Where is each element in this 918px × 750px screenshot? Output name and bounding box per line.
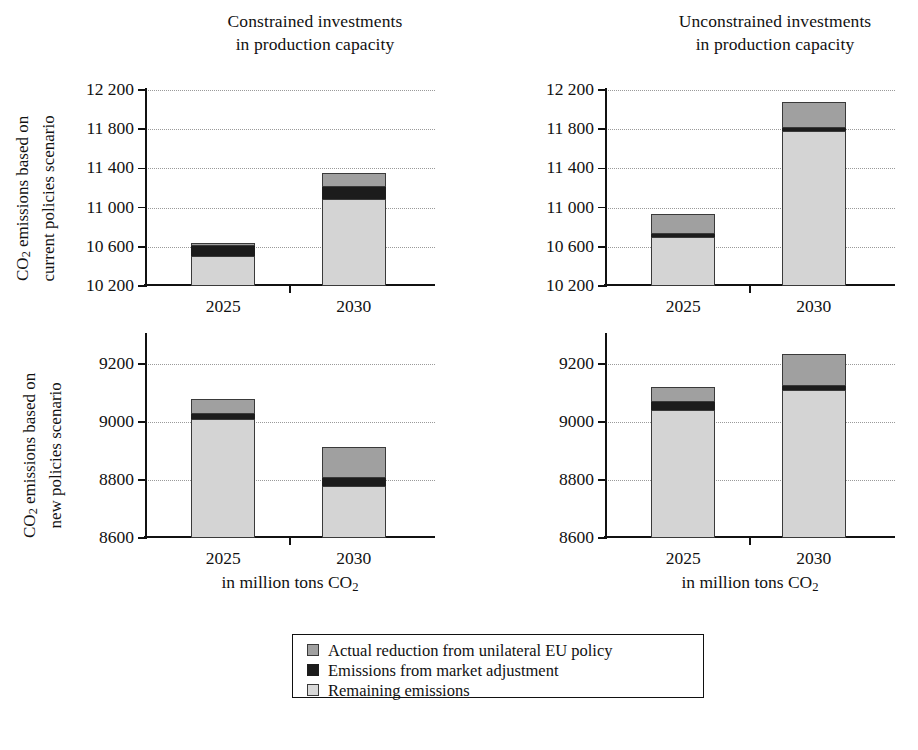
y-axis-tick-label: 11 000 — [547, 199, 594, 217]
stacked-bar-2025 — [191, 399, 255, 538]
stacked-bar-2025 — [651, 387, 715, 538]
y-axis-tick-label: 10 600 — [546, 238, 594, 256]
x-axis-tick — [289, 538, 291, 545]
gridline — [145, 208, 435, 209]
stacked-bar-2030 — [782, 354, 846, 538]
gridline — [145, 480, 435, 481]
bar-segment-market-adjustment — [191, 414, 255, 419]
y-axis-tick-label: 11 800 — [87, 120, 134, 138]
bar-segment-market-adjustment — [191, 246, 255, 256]
y-axis-tick-label: 9200 — [99, 355, 134, 373]
y-axis-line — [605, 333, 607, 539]
x-axis-tick-label: 2030 — [336, 548, 371, 569]
stacked-bar-2030 — [322, 447, 386, 538]
bar-segment-actual-reduction — [322, 447, 386, 478]
gridline — [145, 129, 435, 130]
legend-swatch-remaining-icon — [307, 684, 319, 696]
y-axis-tick-label: 9200 — [559, 355, 594, 373]
bar-segment-actual-reduction — [191, 399, 255, 414]
column-title-constrained-line1: Constrained investments — [228, 11, 403, 31]
y-axis-line — [145, 88, 147, 287]
y-axis-tick — [598, 168, 605, 170]
y-axis-tick-label: 12 200 — [546, 81, 594, 99]
chart-panel-bottom-right: 860088009000920020252030 — [605, 335, 895, 538]
x-axis-caption-left: in million tons CO2 — [140, 572, 440, 595]
y-axis-line — [145, 333, 147, 539]
legend-label-market: Emissions from market adjustment — [328, 662, 559, 679]
y-axis-tick-label: 10 200 — [546, 277, 594, 295]
column-title-constrained-line2: in production capacity — [236, 34, 395, 54]
y-axis-tick — [598, 89, 605, 91]
legend: Actual reduction from unilateral EU poli… — [292, 634, 704, 698]
bar-segment-market-adjustment — [651, 402, 715, 410]
gridline — [145, 422, 435, 423]
bar-segment-remaining-emissions — [782, 390, 846, 538]
row-label-current-policies-line1: CO2 emissions based on — [12, 93, 38, 303]
chart-panel-top-left: 10 20010 60011 00011 40011 80012 2002025… — [145, 90, 435, 286]
y-axis-tick-label: 9000 — [99, 413, 134, 431]
x-axis-tick-label: 2025 — [666, 548, 701, 569]
legend-swatch-market-icon — [307, 664, 319, 676]
gridline — [145, 247, 435, 248]
legend-swatch-reduction-icon — [307, 644, 319, 656]
legend-label-remaining: Remaining emissions — [328, 682, 470, 699]
x-axis-tick-label: 2025 — [666, 296, 701, 317]
x-axis-tick — [289, 286, 291, 293]
y-axis-tick — [598, 479, 605, 481]
bar-segment-market-adjustment — [322, 187, 386, 199]
y-axis-line — [605, 88, 607, 287]
y-axis-tick-label: 11 400 — [547, 160, 594, 178]
x-axis-tick-label: 2025 — [206, 548, 241, 569]
x-axis-caption-right: in million tons CO2 — [600, 572, 900, 595]
y-axis-tick-label: 8800 — [99, 471, 134, 489]
legend-item-remaining: Remaining emissions — [307, 681, 703, 700]
stacked-bar-2030 — [782, 102, 846, 286]
column-title-unconstrained: Unconstrained investments in production … — [610, 10, 918, 56]
stacked-bar-2025 — [191, 243, 255, 286]
bar-segment-actual-reduction — [651, 214, 715, 234]
x-axis-tick-label: 2030 — [336, 296, 371, 317]
stacked-bar-2025 — [651, 214, 715, 286]
row-label-current-policies-line2: current policies scenario — [37, 93, 58, 303]
y-axis-tick — [598, 207, 605, 209]
bar-segment-market-adjustment — [651, 234, 715, 237]
chart-panel-bottom-left: 860088009000920020252030 — [145, 335, 435, 538]
y-axis-tick — [598, 128, 605, 130]
y-axis-tick-label: 8600 — [99, 529, 134, 547]
bar-segment-market-adjustment — [322, 478, 386, 486]
gridline — [145, 364, 435, 365]
y-axis-tick-label: 11 400 — [87, 160, 134, 178]
stacked-bar-figure: Constrained investments in production ca… — [0, 0, 918, 750]
bar-segment-actual-reduction — [782, 354, 846, 386]
gridline — [605, 247, 895, 248]
bar-segment-remaining-emissions — [651, 237, 715, 286]
y-axis-tick-label: 10 200 — [86, 277, 134, 295]
legend-label-reduction: Actual reduction from unilateral EU poli… — [328, 642, 613, 659]
y-axis-tick-label: 11 000 — [87, 199, 134, 217]
chart-panel-top-right: 10 20010 60011 00011 40011 80012 2002025… — [605, 90, 895, 286]
y-axis-tick — [138, 479, 145, 481]
column-title-unconstrained-line1: Unconstrained investments — [679, 11, 872, 31]
bar-segment-remaining-emissions — [322, 199, 386, 286]
bar-segment-actual-reduction — [191, 243, 255, 246]
bar-segment-remaining-emissions — [651, 410, 715, 538]
bar-segment-actual-reduction — [651, 387, 715, 402]
y-axis-tick — [138, 89, 145, 91]
row-label-new-policies-line2: new policies scenario — [44, 350, 65, 560]
legend-item-reduction: Actual reduction from unilateral EU poli… — [307, 641, 703, 660]
bar-segment-actual-reduction — [322, 173, 386, 187]
x-axis-tick-label: 2030 — [796, 548, 831, 569]
y-axis-tick — [138, 421, 145, 423]
gridline — [145, 168, 435, 169]
y-axis-tick — [138, 363, 145, 365]
row-label-current-policies: CO2 emissions based on current policies … — [12, 93, 59, 303]
bar-segment-remaining-emissions — [782, 131, 846, 286]
gridline — [605, 129, 895, 130]
gridline — [605, 208, 895, 209]
y-axis-tick — [598, 246, 605, 248]
y-axis-tick — [598, 421, 605, 423]
gridline — [605, 422, 895, 423]
bar-segment-remaining-emissions — [191, 419, 255, 538]
y-axis-tick-label: 9000 — [559, 413, 594, 431]
x-axis-tick-label: 2025 — [206, 296, 241, 317]
